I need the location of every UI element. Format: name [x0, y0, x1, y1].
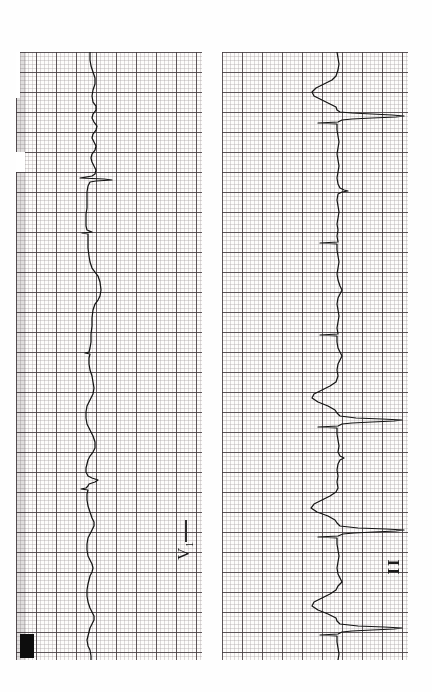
lead-label-v1-underline: [185, 520, 187, 542]
lead-label-ii: II: [384, 557, 404, 574]
ecg-strip-v1: [16, 52, 202, 660]
ecg-calibration-block: [20, 634, 34, 658]
lead-label-ii-text: II: [384, 557, 403, 574]
ecg-trace-v1: [80, 52, 112, 660]
ecg-page: V1 II: [0, 0, 432, 692]
ecg-strip-ii: [222, 52, 408, 660]
lead-label-v1-subscript: 1: [183, 541, 195, 547]
lead-label-v1: V1: [174, 541, 195, 560]
lead-label-v1-text: V: [174, 547, 193, 560]
ecg-trace-svg-v1: [16, 52, 202, 660]
ecg-trace-svg-ii: [222, 52, 408, 660]
